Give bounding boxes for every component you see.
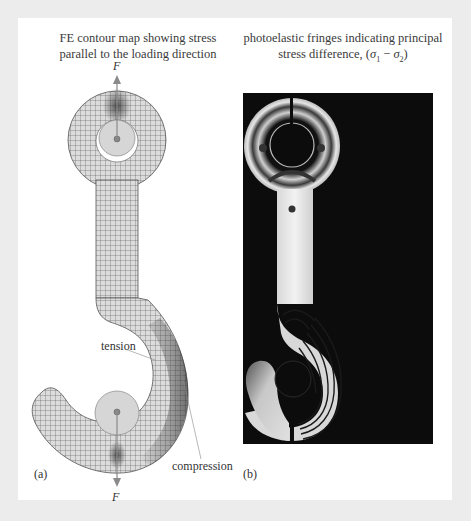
panel-a-label: (a) [34, 467, 47, 482]
photoelastic-photo [243, 93, 433, 444]
compression-label: compression [172, 459, 233, 474]
panel-b-label: (b) [243, 467, 257, 482]
tension-label: tension [101, 339, 136, 354]
hook-curve [32, 298, 188, 473]
photo-shank [277, 189, 313, 304]
force-label-top: F [113, 59, 120, 74]
hook-shank [96, 180, 138, 298]
force-label-bottom: F [112, 490, 119, 505]
photoelastic-hook-image [243, 93, 433, 444]
